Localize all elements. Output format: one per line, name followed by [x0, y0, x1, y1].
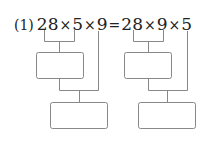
- right-bracket-line: [134, 30, 164, 42]
- calculation-tree-diagram: [0, 0, 202, 141]
- right-bracket-line-2: [149, 79, 188, 91]
- right-answer-box-2[interactable]: [139, 103, 196, 129]
- left-answer-box-1[interactable]: [37, 53, 84, 79]
- left-answer-box-2[interactable]: [51, 103, 108, 129]
- left-bracket-line: [45, 30, 75, 42]
- left-bracket-line-2: [60, 79, 99, 91]
- right-answer-box-1[interactable]: [125, 53, 172, 79]
